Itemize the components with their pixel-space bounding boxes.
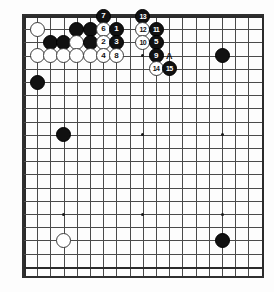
move-number: 9 [154, 51, 158, 59]
grid-line-horizontal [24, 174, 262, 175]
hoshi-point [221, 213, 224, 216]
grid-line-horizontal [24, 122, 262, 123]
move-number: 14 [153, 65, 159, 72]
move-number: 11 [153, 25, 159, 32]
move-number: 12 [140, 25, 146, 32]
move-number: 7 [101, 12, 105, 20]
move-number: 8 [114, 51, 118, 59]
grid-line-horizontal [24, 82, 262, 83]
black-stone [56, 127, 71, 142]
move-number: 10 [140, 39, 146, 46]
numbered-move-stone: 8 [109, 48, 124, 63]
move-number: 15 [166, 65, 172, 72]
white-stone [30, 22, 45, 37]
grid-line-horizontal [24, 95, 262, 96]
grid-line-horizontal [24, 267, 262, 269]
grid-line-horizontal [24, 188, 262, 189]
move-number: 13 [140, 12, 146, 19]
move-number: 6 [101, 25, 105, 33]
black-stone [30, 75, 45, 90]
move-number: 1 [114, 25, 118, 33]
black-stone [215, 233, 230, 248]
grid-line-horizontal [24, 254, 262, 255]
grid-line-horizontal [24, 69, 262, 70]
grid-line-horizontal [24, 201, 262, 202]
grid-line-horizontal [24, 148, 262, 149]
black-stone [215, 48, 230, 63]
move-number: 4 [101, 51, 105, 59]
grid-line-horizontal [24, 108, 262, 109]
white-stone [56, 233, 71, 248]
grid-line-horizontal [24, 227, 262, 228]
hoshi-point [62, 213, 65, 216]
hoshi-point [141, 213, 144, 216]
move-number: 3 [114, 38, 118, 46]
goban-grid: 713611211231054891415A [24, 16, 262, 276]
hoshi-point [141, 54, 144, 57]
hoshi-point [221, 133, 224, 136]
hoshi-point [141, 133, 144, 136]
grid-line-horizontal [24, 161, 262, 162]
move-number: 2 [101, 38, 105, 46]
numbered-move-stone: 15 [162, 61, 177, 76]
point-label: A [166, 51, 173, 61]
go-diagram: 713611211231054891415A [0, 0, 274, 292]
move-number: 5 [154, 38, 158, 46]
